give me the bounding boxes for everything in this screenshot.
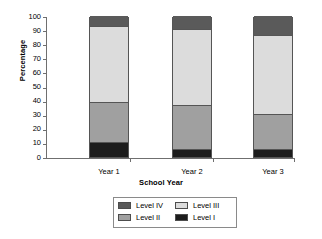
x-axis-line [46,158,295,159]
y-axis-tick-label: 90 [15,27,41,35]
y-axis-tick-mark [43,158,46,159]
legend-label: Level I [193,213,215,222]
bar-segment-level-iii[interactable] [254,36,292,115]
legend-label: Level III [193,201,219,210]
y-axis-tick-mark [43,17,46,18]
x-axis-tick [130,158,131,162]
stacked-bar-chart: Percentage 0102030405060708090100 Year 1… [0,0,322,239]
bar-segment-level-iv[interactable] [173,16,211,30]
bar-segment-level-i[interactable] [254,150,292,157]
legend-item[interactable]: Level II [118,213,175,222]
y-axis-tick-label: 0 [15,154,41,162]
bar-segment-level-i[interactable] [90,143,128,157]
chart-legend: Level IVLevel IIILevel IILevel I [113,197,237,228]
y-axis-line [46,17,47,159]
y-axis-tick-label: 20 [15,125,41,133]
y-axis-tick-label: 50 [15,83,41,91]
legend-item[interactable]: Level III [175,201,232,210]
bar-segment-level-iii[interactable] [173,30,211,106]
bar-segment-level-ii[interactable] [90,103,128,142]
x-axis-category-label: Year 2 [162,167,222,176]
stacked-bar[interactable] [253,17,293,158]
y-axis-tick-label: 80 [15,41,41,49]
y-axis-tick-mark [43,73,46,74]
legend-swatch-icon [118,214,131,221]
y-axis-tick-label: 60 [15,69,41,77]
y-axis-tick-label: 100 [15,13,41,21]
bar-segment-level-iv[interactable] [90,16,128,27]
bar-segment-level-iii[interactable] [90,27,128,103]
x-axis-title: School Year [0,178,322,187]
bar-segment-level-iv[interactable] [254,16,292,36]
y-axis-tick-mark [43,31,46,32]
x-axis-category-label: Year 3 [243,167,303,176]
y-axis-tick-mark [43,102,46,103]
bar-segment-level-ii[interactable] [254,115,292,150]
y-axis-tick-mark [43,116,46,117]
x-axis-tick [213,158,214,162]
y-axis-tick-label: 40 [15,97,41,105]
x-axis-category-label: Year 1 [79,167,139,176]
stacked-bar[interactable] [172,17,212,158]
y-axis-tick-mark [43,144,46,145]
stacked-bar[interactable] [89,17,129,158]
y-axis-tick-label: 10 [15,139,41,147]
y-axis-tick-mark [43,59,46,60]
x-axis-tick [294,158,295,162]
legend-swatch-icon [118,202,131,209]
bar-segment-level-i[interactable] [173,150,211,157]
legend-swatch-icon [175,214,188,221]
bar-segment-level-ii[interactable] [173,106,211,150]
plot-area: 0102030405060708090100 Year 1Year 2Year … [46,17,295,159]
y-axis-tick-label: 70 [15,55,41,63]
y-axis-tick-label: 30 [15,111,41,119]
legend-label: Level II [136,213,160,222]
y-axis-tick-mark [43,45,46,46]
legend-swatch-icon [175,202,188,209]
legend-item[interactable]: Level I [175,213,232,222]
y-axis-tick-mark [43,88,46,89]
legend-label: Level IV [136,201,163,210]
y-axis-tick-mark [43,130,46,131]
legend-item[interactable]: Level IV [118,201,175,210]
